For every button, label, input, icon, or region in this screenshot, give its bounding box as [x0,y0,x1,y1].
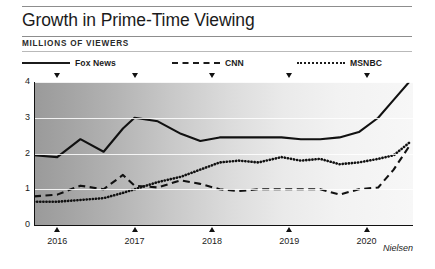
gridline-y-3 [34,118,413,119]
x-tick-2019: 2019 [279,236,299,246]
y-axis-line [34,82,35,226]
top-tick-mark-2020 [364,73,370,78]
chart-plot-area [34,82,413,225]
y-tick-1: 1 [4,183,30,193]
x-tick-mark-2020 [364,227,370,232]
legend-item-fox-news: Fox News [22,56,116,70]
x-tick-2017: 2017 [125,236,145,246]
legend-item-cnn: CNN [172,56,244,70]
x-tick-2020: 2020 [357,236,377,246]
header-rule-bottom [22,51,412,52]
y-tick-3: 3 [4,112,30,122]
top-tick-mark-2019 [286,73,292,78]
chart-legend: Fox News CNN MSNBC [22,56,412,70]
legend-swatch-dotted-icon [297,62,345,64]
header-rule-top [22,6,412,7]
x-tick-2016: 2016 [47,236,67,246]
legend-swatch-dashed-icon [172,62,220,64]
x-tick-mark-2018 [209,227,215,232]
x-tick-2018: 2018 [202,236,222,246]
series-line-msnbc [34,143,409,202]
x-tick-mark-2017 [132,227,138,232]
x-axis-tick-labels: 20162017201820192020 [34,227,413,249]
y-tick-0: 0 [4,219,30,229]
gridline-y-2 [34,154,413,155]
gridline-y-1 [34,189,413,190]
top-tick-mark-2018 [209,73,215,78]
chart-top-tick-marks [34,73,413,81]
header-rule-middle [22,36,412,37]
legend-item-msnbc: MSNBC [297,56,382,70]
y-axis-tick-labels: 01234 [0,82,30,226]
x-axis-line [34,225,413,226]
chart-figure: Growth in Prime-Time Viewing MILLIONS OF… [0,0,435,269]
x-tick-mark-2016 [54,227,60,232]
legend-swatch-solid-icon [22,62,70,64]
gridline-y-4 [34,82,413,83]
chart-subtitle: MILLIONS OF VIEWERS [22,39,129,48]
chart-title: Growth in Prime-Time Viewing [22,10,255,31]
legend-label-cnn: CNN [225,58,244,68]
y-tick-2: 2 [4,148,30,158]
x-tick-mark-2019 [286,227,292,232]
y-tick-4: 4 [4,76,30,86]
top-tick-mark-2016 [54,73,60,78]
legend-label-fox-news: Fox News [75,58,116,68]
top-tick-mark-2017 [132,73,138,78]
legend-label-msnbc: MSNBC [350,58,382,68]
source-attribution: Nielsen [383,243,413,253]
series-line-fox-news [34,82,409,157]
chart-canvas: 01234 20162017201820192020 [0,70,435,232]
